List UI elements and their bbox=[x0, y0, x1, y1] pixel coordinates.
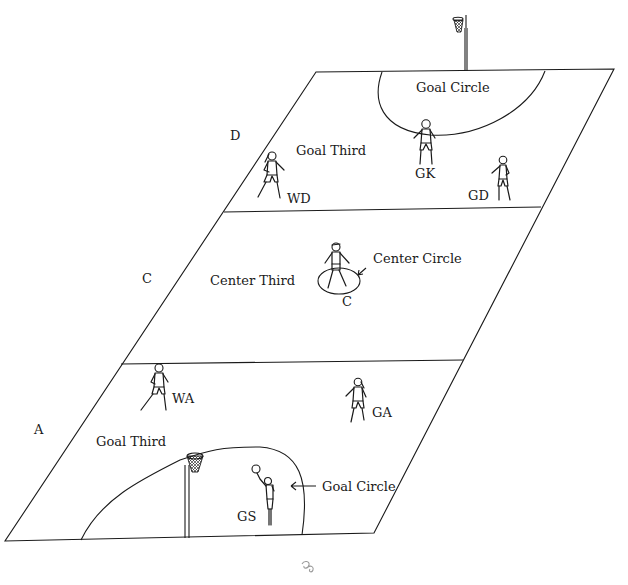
divider-bottom-third bbox=[121, 360, 463, 364]
player-gd-icon bbox=[492, 156, 510, 200]
center-circle-arrow-icon bbox=[358, 268, 366, 275]
ball-icon bbox=[252, 465, 260, 473]
player-c-icon bbox=[325, 243, 349, 288]
player-c-label: C bbox=[342, 294, 352, 309]
side-letter-d: D bbox=[230, 128, 240, 143]
divider-top-third bbox=[224, 207, 541, 212]
bottom-goal-post-icon bbox=[185, 453, 203, 538]
side-letter-a: A bbox=[33, 422, 44, 437]
center-circle bbox=[318, 268, 360, 294]
netball-court-diagram: Goal Circle D Goal Third GK WD GD C Cent… bbox=[0, 0, 628, 585]
ornament-icon bbox=[302, 561, 313, 571]
player-gd-label: GD bbox=[468, 188, 489, 203]
player-wa-label: WA bbox=[172, 391, 195, 406]
player-ga-icon bbox=[346, 378, 366, 422]
player-gk-label: GK bbox=[415, 166, 435, 181]
top-goal-circle-label: Goal Circle bbox=[416, 80, 490, 95]
player-wd-label: WD bbox=[287, 191, 311, 206]
player-ga-label: GA bbox=[372, 405, 392, 420]
top-goal-post-icon bbox=[453, 15, 467, 71]
side-letter-c: C bbox=[142, 271, 152, 286]
player-wa-icon bbox=[141, 364, 168, 410]
player-wd-icon bbox=[258, 152, 284, 198]
player-gk-icon bbox=[414, 120, 435, 164]
player-gs-label: GS bbox=[237, 509, 256, 524]
bottom-goal-third-label: Goal Third bbox=[96, 434, 166, 449]
bottom-goal-circle-label: Goal Circle bbox=[322, 479, 396, 494]
court-outline bbox=[5, 69, 614, 541]
center-third-label: Center Third bbox=[210, 273, 295, 288]
center-circle-label: Center Circle bbox=[373, 251, 462, 266]
top-goal-third-label: Goal Third bbox=[296, 143, 366, 158]
